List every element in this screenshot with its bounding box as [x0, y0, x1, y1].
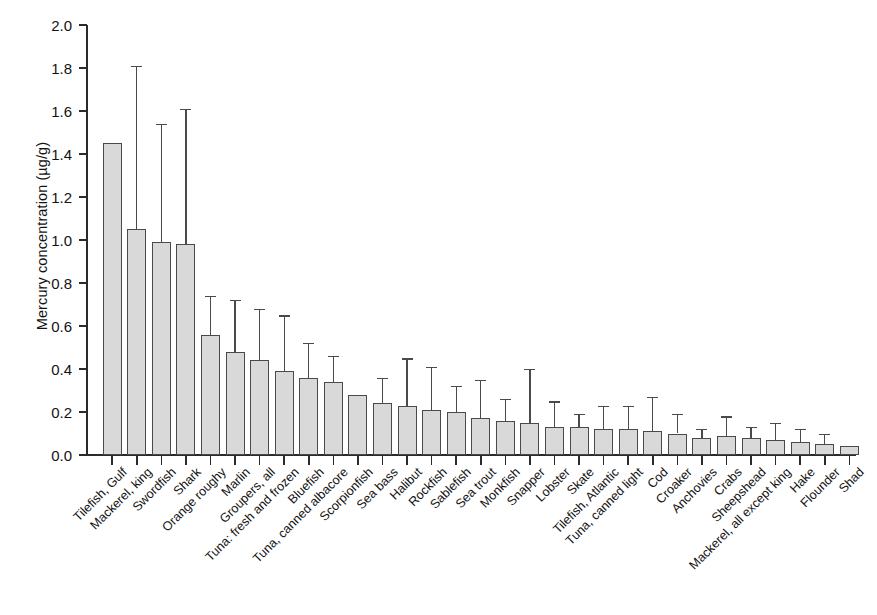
error-bar-line	[234, 300, 235, 352]
error-bar-cap	[475, 380, 486, 381]
y-axis-tick	[79, 153, 87, 155]
y-axis-tick	[79, 196, 87, 198]
error-bar-cap	[451, 386, 462, 387]
error-bar-cap	[549, 401, 560, 402]
y-axis-tick	[79, 454, 87, 456]
x-axis-tick-labels: Tilefish, GulfMackerel, kingSwordfishSha…	[86, 465, 876, 615]
plot-area	[86, 25, 855, 455]
error-bar-cap	[696, 429, 707, 430]
y-axis-tick-label: 1.8	[32, 60, 72, 77]
y-axis-tick-label: 0.2	[32, 404, 72, 421]
y-axis-tick	[79, 24, 87, 26]
error-bar-line	[505, 399, 506, 421]
x-axis-tick	[111, 456, 113, 465]
error-bar-line	[210, 296, 211, 335]
y-axis-tick-label: 1.2	[32, 189, 72, 206]
error-bar-line	[726, 416, 727, 435]
error-bar-line	[333, 356, 334, 382]
y-axis-tick-label: 1.6	[32, 103, 72, 120]
y-axis-tick-label: 0.8	[32, 275, 72, 292]
error-bar-cap	[205, 296, 216, 297]
bar	[127, 229, 146, 455]
y-axis-tick-label: 0.6	[32, 318, 72, 335]
error-bar-line	[578, 414, 579, 427]
y-axis-tick-labels: 0.00.20.40.60.81.01.21.41.61.82.0	[26, 0, 72, 615]
error-bar-cap	[180, 109, 191, 110]
error-bar-line	[628, 406, 629, 430]
error-bar-line	[603, 406, 604, 430]
bar	[103, 143, 122, 455]
error-bar-line	[529, 369, 530, 423]
error-bar-line	[775, 423, 776, 440]
error-bar-cap	[500, 399, 511, 400]
error-bar-cap	[279, 315, 290, 316]
y-axis-tick-label: 1.0	[32, 232, 72, 249]
error-bar-cap	[598, 406, 609, 407]
y-axis-tick	[79, 239, 87, 241]
bar	[226, 352, 245, 455]
error-bar-line	[480, 380, 481, 419]
y-axis-tick	[79, 67, 87, 69]
mercury-concentration-bar-chart: Mercury concentration (µg/g) 0.00.20.40.…	[0, 0, 877, 615]
error-bar-cap	[230, 300, 241, 301]
error-bar-line	[259, 309, 260, 361]
error-bar-cap	[303, 343, 314, 344]
error-bar-cap	[770, 423, 781, 424]
error-bar-line	[185, 109, 186, 244]
error-bar-cap	[156, 124, 167, 125]
y-axis-tick	[79, 411, 87, 413]
error-bar-line	[456, 386, 457, 412]
error-bar-cap	[623, 406, 634, 407]
error-bar-cap	[524, 369, 535, 370]
y-axis-tick-label: 0.4	[32, 361, 72, 378]
error-bar-line	[284, 315, 285, 371]
error-bar-cap	[131, 66, 142, 67]
error-bar-line	[554, 401, 555, 427]
error-bar-cap	[574, 414, 585, 415]
y-axis-tick-label: 2.0	[32, 17, 72, 34]
y-axis-tick	[79, 325, 87, 327]
error-bar-cap	[426, 367, 437, 368]
y-axis-tick	[79, 282, 87, 284]
error-bar-cap	[647, 397, 658, 398]
error-bar-line	[136, 66, 137, 229]
y-axis-tick	[79, 368, 87, 370]
error-bar-cap	[402, 358, 413, 359]
y-axis-tick	[79, 110, 87, 112]
error-bar-cap	[721, 416, 732, 417]
error-bar-line	[161, 124, 162, 242]
error-bar-cap	[254, 309, 265, 310]
error-bar-line	[308, 343, 309, 377]
y-axis-tick-label: 0.0	[32, 447, 72, 464]
y-axis-tick-label: 1.4	[32, 146, 72, 163]
error-bar-cap	[328, 356, 339, 357]
